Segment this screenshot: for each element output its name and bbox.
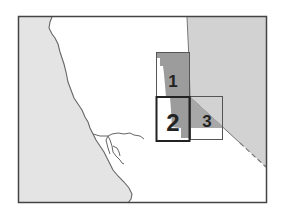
adjacent-region (187, 17, 266, 167)
western-region (19, 17, 132, 203)
box-2-label: 2 (166, 109, 179, 136)
locator-map: 1 2 3 (0, 0, 285, 222)
box-3-label: 3 (202, 112, 211, 131)
box-1-label: 1 (168, 72, 177, 91)
